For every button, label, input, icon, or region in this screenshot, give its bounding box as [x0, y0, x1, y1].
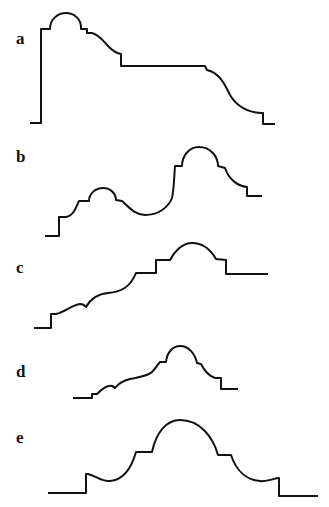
trace-a — [30, 13, 275, 124]
trace-b — [45, 147, 262, 236]
trace-e — [48, 420, 318, 496]
profile-traces — [0, 0, 329, 507]
trace-c — [34, 243, 268, 328]
trace-d — [73, 346, 238, 398]
profile-figure: a b c d e — [0, 0, 329, 507]
